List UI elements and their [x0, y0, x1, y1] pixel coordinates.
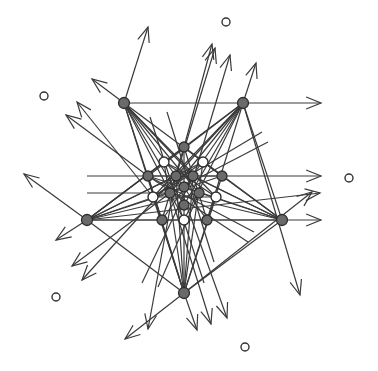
star-diagram — [0, 0, 378, 371]
arrow — [243, 97, 321, 109]
filled-point — [202, 215, 212, 225]
filled-point — [179, 142, 189, 152]
filled-point — [179, 182, 189, 192]
connection-line — [87, 220, 184, 293]
filled-point — [82, 215, 93, 226]
filled-point — [188, 171, 198, 181]
isolated-point — [345, 174, 353, 182]
hollow-point — [148, 192, 158, 202]
connection-line — [148, 176, 248, 242]
filled-point — [194, 188, 204, 198]
filled-point — [119, 98, 130, 109]
arrow — [66, 115, 148, 176]
filled-point — [157, 215, 167, 225]
filled-point — [277, 215, 288, 226]
filled-point — [217, 171, 227, 181]
hollow-point — [159, 157, 169, 167]
arrow — [124, 27, 149, 103]
arrow — [125, 293, 184, 339]
arrow — [82, 176, 176, 280]
isolated-point — [40, 92, 48, 100]
filled-point — [179, 200, 189, 210]
filled-point — [238, 98, 249, 109]
arrow — [243, 63, 257, 103]
hollow-point — [198, 157, 208, 167]
hollow-point — [211, 192, 221, 202]
arrow — [184, 44, 214, 147]
isolated-point — [52, 293, 60, 301]
arrow — [24, 174, 87, 220]
isolated-point — [222, 18, 230, 26]
connection-line — [243, 103, 282, 220]
connection-line — [124, 103, 193, 176]
filled-point — [171, 171, 181, 181]
filled-point — [179, 288, 190, 299]
filled-point — [165, 188, 175, 198]
filled-point — [143, 171, 153, 181]
isolated-point — [241, 343, 249, 351]
hollow-point — [179, 215, 189, 225]
